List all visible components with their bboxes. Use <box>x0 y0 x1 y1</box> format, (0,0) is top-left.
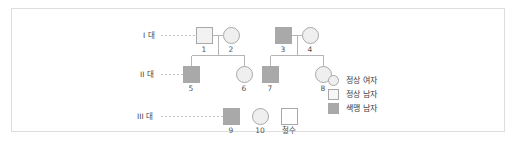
individual-3-symbol[interactable] <box>275 27 292 44</box>
individual-2-symbol[interactable] <box>223 27 240 44</box>
legend-label-colorblind-male: 색맹 남자 <box>346 103 377 114</box>
pedigree-figure: I 대 II 대 III 대 1 2 3 4 5 6 7 8 9 10 철수 정… <box>11 8 505 132</box>
square-affected-icon <box>328 103 339 114</box>
individual-2-label: 2 <box>214 45 248 54</box>
individual-1-symbol[interactable] <box>196 27 213 44</box>
generation-label-1: I 대 <box>143 31 155 40</box>
legend-item-normal-male: 정상 남자 <box>328 87 448 101</box>
legend-label-normal-male: 정상 남자 <box>346 89 377 100</box>
generation-label-2: II 대 <box>140 70 154 79</box>
individual-5-symbol[interactable] <box>183 66 200 83</box>
individual-7-symbol[interactable] <box>262 66 279 83</box>
legend-item-normal-female: 정상 여자 <box>328 73 448 87</box>
individual-4-label: 4 <box>293 45 327 54</box>
individual-4-symbol[interactable] <box>302 27 319 44</box>
generation-label-3: III 대 <box>137 112 153 121</box>
legend: 정상 여자 정상 남자 색맹 남자 <box>328 73 448 115</box>
legend-item-colorblind-male: 색맹 남자 <box>328 101 448 115</box>
individual-7-label: 7 <box>253 84 287 93</box>
individual-5-label: 5 <box>174 84 208 93</box>
individual-10-symbol[interactable] <box>252 108 269 125</box>
individual-9-symbol[interactable] <box>223 108 240 125</box>
circle-normal-icon <box>328 75 339 86</box>
legend-label-normal-female: 정상 여자 <box>346 75 377 86</box>
individual-cheolsu-symbol[interactable] <box>281 108 298 125</box>
square-normal-icon <box>328 89 339 100</box>
individual-6-symbol[interactable] <box>236 66 253 83</box>
individual-cheolsu-label: 철수 <box>272 126 306 135</box>
